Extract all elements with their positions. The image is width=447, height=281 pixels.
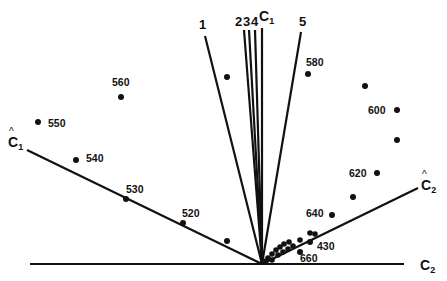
vector-label-1: 1 [199,17,206,32]
cluster-point [286,239,292,245]
point-530 [123,196,129,202]
point-unlabeled-5 [224,238,230,244]
cluster-point [297,237,303,243]
point-600 [394,107,400,113]
cluster-point [290,243,296,249]
chromaticity-diagram: 1 2 3 4 C1 5 C1 ^ C2 ^ C2 55056054053052… [0,0,447,281]
cluster-point [269,257,275,263]
cluster-point [307,230,313,236]
point-label-600: 600 [368,104,386,116]
point-540 [73,157,79,163]
point-label-620: 620 [349,167,367,179]
cluster-point [281,241,287,247]
point-620 [374,170,380,176]
point-label-430: 430 [317,240,335,252]
point-520 [180,220,186,226]
point-unlabeled-10 [394,137,400,143]
point-640 [329,212,335,218]
point-label-520: 520 [182,207,200,219]
point-unlabeled-8 [362,83,368,89]
vector-label-5: 5 [299,14,306,29]
vector-label-2: 2 [235,14,242,29]
hat-c1: ^ [9,126,14,137]
point-430 [307,239,313,245]
vector-5 [262,32,301,264]
point-label-640: 640 [306,207,324,219]
cluster-point [280,249,286,255]
point-unlabeled-6 [224,74,230,80]
cluster-point [269,251,275,257]
cluster-point [263,258,269,264]
point-label-530: 530 [126,183,144,195]
point-550 [35,119,41,125]
point-label-540: 540 [86,152,104,164]
point-unlabeled-12 [350,194,356,200]
diagram-canvas: 1 2 3 4 C1 5 C1 ^ C2 ^ C2 55056054053052… [0,0,447,281]
cluster-point [312,231,318,237]
cluster-point [275,252,281,258]
point-label-660: 660 [300,252,318,264]
point-label-580: 580 [306,56,324,68]
axis-c1-hat [27,150,262,264]
vector-label-3: 3 [243,14,250,29]
hat-c2: ^ [422,169,427,180]
point-560 [118,94,124,100]
cluster-point [285,246,291,252]
point-580 [305,71,311,77]
vector-label-4: 4 [251,14,259,29]
point-label-560: 560 [112,76,130,88]
axis-label-c2: C2 [420,257,435,275]
vector-label-c1: C1 [259,8,274,26]
point-label-550: 550 [48,117,66,129]
